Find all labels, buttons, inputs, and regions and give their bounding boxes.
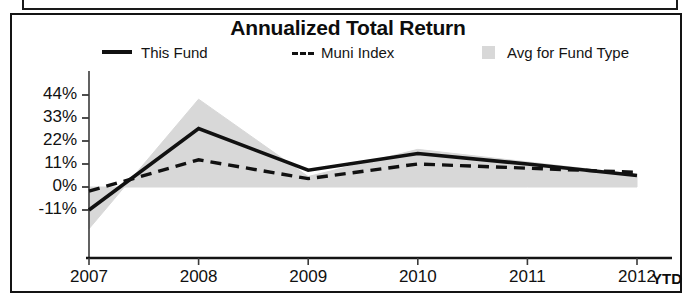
avg-fund-type-band: [89, 99, 637, 229]
chart-page: Annualized Total Return This Fund Muni I…: [0, 0, 695, 308]
chart-frame: Annualized Total Return This Fund Muni I…: [10, 13, 682, 293]
x-axis-tick-label: 2009: [273, 267, 343, 287]
x-axis-tick-label: 2008: [164, 267, 234, 287]
x-axis-tick-label: 2007: [54, 267, 124, 287]
x-axis-tick-label: 2010: [383, 267, 453, 287]
chart-svg: [12, 15, 684, 295]
clipped-top-box: [22, 0, 678, 10]
plot-area: 44%33%22%11%0%-11% 200720082009201020112…: [12, 15, 684, 295]
x-axis-ytd-label: YTD: [652, 270, 682, 287]
x-axis-tick-label: 2011: [492, 267, 562, 287]
y-axis-tick-label: 22%: [17, 130, 77, 150]
y-axis-tick-label: -11%: [17, 199, 77, 219]
y-axis-tick-label: 33%: [17, 107, 77, 127]
y-axis-tick-label: 11%: [17, 153, 77, 173]
y-axis-tick-label: 44%: [17, 84, 77, 104]
y-axis-tick-label: 0%: [17, 176, 77, 196]
